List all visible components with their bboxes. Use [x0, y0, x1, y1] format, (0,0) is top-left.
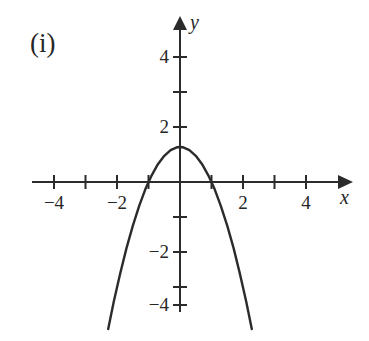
- y-tick-label--2: −2: [140, 241, 169, 263]
- x-tick-label--4: −4: [44, 192, 64, 214]
- y-axis-arrowhead: [173, 16, 187, 30]
- x-tick-label--2: −2: [107, 192, 127, 214]
- y-tick-label-4: 4: [150, 46, 169, 68]
- x-axis-label: x: [340, 186, 349, 209]
- graph-canvas: [0, 0, 369, 341]
- y-tick-label--4: −4: [140, 294, 169, 316]
- y-tick-label-2: 2: [150, 116, 169, 138]
- y-axis-label: y: [190, 11, 199, 34]
- figure-container: (i): [0, 0, 369, 341]
- x-tick-label-4: 4: [301, 192, 311, 214]
- x-tick-label-2: 2: [238, 192, 248, 214]
